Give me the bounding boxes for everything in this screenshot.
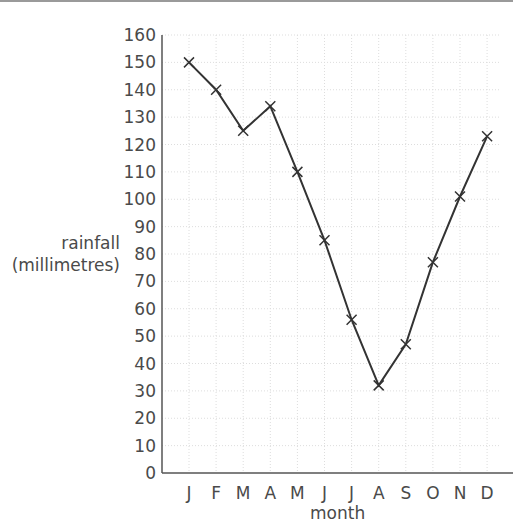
x-axis-label: month — [310, 503, 365, 523]
y-tick-label: 60 — [134, 299, 156, 319]
data-point-x-marker — [428, 257, 438, 267]
y-tick-label: 160 — [124, 25, 156, 45]
y-tick-label: 150 — [124, 52, 156, 72]
y-tick-label: 100 — [124, 189, 156, 209]
y-tick-label: 140 — [124, 80, 156, 100]
y-tick-label: 20 — [134, 408, 156, 428]
x-tick-label: A — [264, 483, 276, 503]
x-tick-label: M — [290, 483, 305, 503]
y-axis-label-line1: rainfall — [0, 232, 120, 254]
y-tick-label: 0 — [145, 463, 156, 483]
x-tick-label: A — [373, 483, 385, 503]
x-tick-label: J — [348, 483, 354, 503]
x-tick-label: O — [426, 483, 439, 503]
y-tick-label: 90 — [134, 217, 156, 237]
data-point-x-marker — [374, 380, 384, 390]
data-point-x-marker — [265, 101, 275, 111]
y-axis-label: rainfall (millimetres) — [0, 232, 120, 276]
x-tick-label: J — [321, 483, 327, 503]
y-tick-label: 10 — [134, 436, 156, 456]
x-tick-label: S — [400, 483, 411, 503]
x-tick-label: F — [211, 483, 221, 503]
y-tick-label: 130 — [124, 107, 156, 127]
data-point-x-marker — [482, 131, 492, 141]
x-tick-label: M — [236, 483, 251, 503]
x-tick-label: N — [454, 483, 467, 503]
x-tick-label: J — [185, 483, 191, 503]
data-line — [189, 62, 487, 385]
y-tick-label: 110 — [124, 162, 156, 182]
y-tick-label: 80 — [134, 244, 156, 264]
y-tick-label: 50 — [134, 326, 156, 346]
y-tick-label: 30 — [134, 381, 156, 401]
y-tick-label: 70 — [134, 271, 156, 291]
y-tick-label: 120 — [124, 135, 156, 155]
x-tick-label: D — [481, 483, 494, 503]
y-axis-label-line2: (millimetres) — [0, 254, 120, 276]
y-tick-label: 40 — [134, 354, 156, 374]
